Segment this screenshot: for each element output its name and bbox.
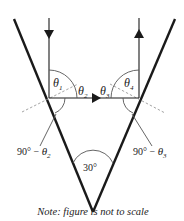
theta3-label: θ3 bbox=[100, 84, 110, 100]
up-arrow-icon bbox=[134, 29, 144, 38]
theta1-label: θ1 bbox=[53, 76, 62, 92]
mirror-diagram: θ1 θ2 θ3 θ4 90° − θ2 90° − θ3 30° Note: … bbox=[0, 0, 184, 221]
right-leader bbox=[132, 114, 152, 146]
right-complement-label: 90° − θ3 bbox=[133, 145, 167, 160]
right-lower-arc bbox=[123, 98, 133, 113]
theta2-label: θ2 bbox=[78, 84, 88, 100]
left-lower-arc bbox=[55, 98, 65, 113]
right-mirror bbox=[93, 19, 175, 212]
left-mirror bbox=[14, 19, 93, 212]
apex-angle-label: 30° bbox=[83, 162, 97, 173]
down-arrow-icon bbox=[44, 30, 54, 39]
theta4-label: θ4 bbox=[124, 76, 134, 92]
scale-note: Note: figure is not to scale bbox=[36, 206, 149, 217]
left-complement-label: 90° − θ2 bbox=[17, 145, 51, 160]
left-leader bbox=[40, 114, 56, 146]
